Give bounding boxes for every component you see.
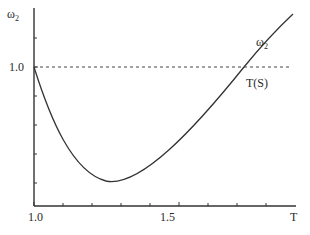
x-tick-label-1: 1.0 xyxy=(28,211,43,223)
x-axis-label: T xyxy=(290,211,297,223)
curve-label-base: ω xyxy=(256,35,264,49)
curve-label: ω2 xyxy=(256,36,268,48)
y-axis-label: ω2 xyxy=(7,8,19,20)
x-tick-label-2: 1.5 xyxy=(160,211,175,223)
y-axis-label-base: ω xyxy=(7,7,15,21)
curve-label-sub: 2 xyxy=(264,42,268,51)
y-axis-label-sub: 2 xyxy=(15,14,19,23)
omega2-curve xyxy=(34,14,293,182)
crossing-label: T(S) xyxy=(246,77,268,89)
y-tick-label: 1.0 xyxy=(9,61,24,73)
